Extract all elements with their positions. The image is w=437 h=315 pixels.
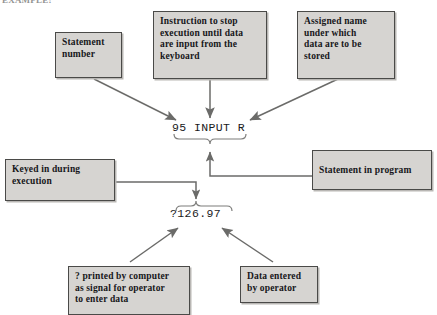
callout-question-mark-label: ? printed by computer as signal for oper… xyxy=(75,271,169,304)
callout-assigned-name: Assigned name under which data are to be… xyxy=(297,11,395,79)
callout-data-entered-label: Data entered by operator xyxy=(247,271,301,293)
example-heading: EXAMPLE: xyxy=(2,0,52,5)
brace-under-statement xyxy=(174,134,246,144)
callout-statement-in-program: Statement in program xyxy=(312,150,432,190)
code-statement-text: 95 INPUT R xyxy=(172,121,245,134)
arrow-statement-number-to-code xyxy=(94,79,176,120)
callout-instruction: Instruction to stop execution until data… xyxy=(153,11,267,79)
callout-assigned-name-label: Assigned name under which data are to be… xyxy=(304,16,367,61)
callout-statement-number: Statement number xyxy=(55,32,122,78)
callout-statement-in-program-label: Statement in program xyxy=(319,165,412,177)
arrow-statement-in-program-to-brace xyxy=(210,152,322,176)
callout-instruction-label: Instruction to stop execution until data… xyxy=(160,16,243,61)
callout-data-entered: Data entered by operator xyxy=(240,266,318,303)
code-statement: 95 INPUT R xyxy=(172,121,245,134)
arrow-question-mark-to-prompt xyxy=(130,228,178,262)
callout-question-mark: ? printed by computer as signal for oper… xyxy=(68,266,190,315)
callout-keyed-in: Keyed in during execution xyxy=(5,159,115,201)
arrow-assigned-name-to-code xyxy=(250,79,338,120)
callout-keyed-in-label: Keyed in during execution xyxy=(12,164,80,186)
code-prompt-output: ?126.97 xyxy=(170,207,221,220)
code-prompt-output-text: ?126.97 xyxy=(170,207,221,220)
arrow-data-entered-to-prompt xyxy=(222,228,273,262)
callout-statement-number-label: Statement number xyxy=(62,37,105,59)
figure-canvas: EXAMPLE: Statement numbe xyxy=(0,0,437,315)
arrow-keyed-in-to-prompt xyxy=(115,182,196,199)
